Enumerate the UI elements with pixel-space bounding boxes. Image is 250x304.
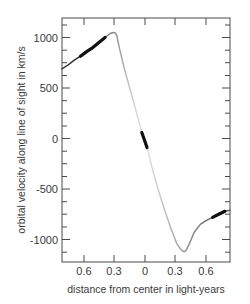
x-tick-labels: 0.6 0.3 0 0.3 0.6 <box>76 265 213 277</box>
x-tick-label: 0.6 <box>76 265 91 277</box>
data-highlight-segments <box>81 38 225 218</box>
x-tick-label: 0.3 <box>106 265 121 277</box>
x-axis-label: distance from center in light-years <box>67 283 225 295</box>
x-tick-label: 0.3 <box>167 265 182 277</box>
y-axis-label: orbital velocity along line of sight in … <box>15 46 27 233</box>
y-tick-label: 1000 <box>34 32 58 44</box>
y-tick-label: 500 <box>40 82 58 94</box>
y-tick-label: -500 <box>36 183 58 195</box>
chart-figure: 1000 500 0 -500 -1000 0.6 0.3 0 0.3 0.6 … <box>0 0 250 304</box>
x-tick-label: 0.6 <box>198 265 213 277</box>
plot-area: 1000 500 0 -500 -1000 0.6 0.3 0 0.3 0.6 … <box>0 0 250 304</box>
y-axis-ticks <box>62 25 230 252</box>
y-tick-label: -1000 <box>30 234 58 246</box>
x-tick-label: 0 <box>142 265 148 277</box>
y-tick-labels: 1000 500 0 -500 -1000 <box>30 32 58 246</box>
y-tick-label: 0 <box>52 133 58 145</box>
